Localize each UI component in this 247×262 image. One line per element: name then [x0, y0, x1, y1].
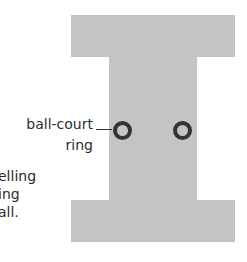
- court-bottom-end-zone: [71, 200, 235, 242]
- caption-fragment-2: ing: [0, 185, 20, 203]
- label-leader-line: [96, 129, 112, 130]
- ball-court-ring-left-icon: [113, 121, 132, 140]
- ring-label-line2: ring: [66, 137, 93, 153]
- ball-court-ring-right-icon: [173, 121, 192, 140]
- ring-label-line1: ball-court: [26, 116, 93, 132]
- court-top-end-zone: [71, 15, 235, 57]
- caption-fragment-3: all.: [0, 203, 19, 221]
- caption-fragment-1: elling: [0, 167, 36, 185]
